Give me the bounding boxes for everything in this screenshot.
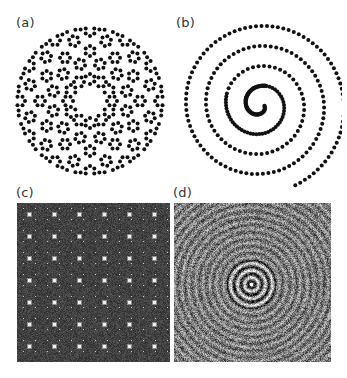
panel-b-dot [319,127,323,131]
panel-a-dot [56,73,60,77]
panel-b-dot [202,52,206,56]
panel-a-dot [161,103,165,107]
panel-a-dot [40,45,44,49]
panel-b-dot [276,25,280,29]
panel-b-dot [303,178,307,182]
panel-b-dot [261,172,265,176]
panel-b-dot [204,97,208,101]
panel-a-dot [97,122,101,126]
panel-a-dot [92,47,96,51]
panel-a-dot [66,138,70,142]
panel-a-dot [65,122,69,126]
panel-a-dot [102,76,106,80]
panel-a-dot [111,138,115,142]
panel-a-dot [92,152,96,156]
panel-a-dot [88,44,92,48]
panel-a-dot [68,155,72,159]
panel-a-dot [127,127,131,131]
panel-a-dot [17,90,21,94]
panel-a-dot [41,146,45,150]
panel-a-dot [27,129,31,133]
panel-a-dot [82,139,86,143]
panel-a-dot [103,137,107,141]
panel-a-dot [60,166,64,170]
panel-b-dot [280,47,284,51]
panel-a-dot [136,127,140,131]
panel-a-dot [25,87,29,91]
panel-a-dot [109,160,113,164]
panel-b-dot [233,29,237,33]
panel-b-dot [322,105,326,109]
panel-a-dot [157,122,161,126]
panel-a-dot [83,134,87,138]
panel-a-dot [84,147,88,151]
panel-a-dot [126,43,130,47]
panel-b-dot [291,78,295,82]
panel-a-dot [64,103,68,107]
panel-a-dot [88,34,92,38]
panel-a-dot [43,138,47,142]
panel-b-dot [257,64,261,68]
panel-a-dot [136,77,140,81]
panel-a-dot [79,28,83,32]
panel-b-dot [195,61,199,65]
panel-b-dot [209,76,213,80]
panel-a-dot [84,119,88,123]
panel-a-dot [128,59,132,63]
panel-b-dot [303,61,307,65]
panel-a-dot [71,99,75,103]
panel-b-dot [334,71,338,75]
panel-a-dot [43,60,47,64]
panel-a-dot [111,108,115,112]
panel-a-dot [27,139,31,143]
panel-b-dot [260,24,264,28]
panel-a-dot [133,138,137,142]
panel-a-dot [103,108,107,112]
panel-a-dot [92,124,96,128]
panel-b-dot [205,108,209,112]
panel-a-dot [88,126,92,130]
panel-a-dot [84,167,88,171]
panel-a-dot [16,95,20,99]
panel-a-dot [103,28,107,32]
panel-a-dot [40,127,44,131]
panel-b-dot [301,154,305,158]
panel-a-dot [88,72,92,76]
panel-a-dot [21,95,25,99]
panel-b-dot [216,133,220,137]
panel-a-dot [120,91,124,95]
panel-b-dot [244,171,248,175]
panel-b-dot [316,79,320,83]
panel-a-dot [53,104,57,108]
panel-a-dot [75,132,79,136]
panel-a-quasicrystal-points [10,22,170,182]
panel-a-dot [92,172,96,176]
panel-a-dot [45,119,49,123]
panel-a-dot [56,108,60,112]
panel-b-dot [300,92,304,96]
panel-b-dot [337,76,341,80]
panel-a-dot [97,84,101,88]
panel-a-dot [73,137,77,141]
panel-a-dot [49,144,53,148]
panel-b-dot [228,32,232,36]
panel-a-dot [153,67,157,71]
panel-a-dot [121,43,125,47]
panel-a-dot [157,76,161,80]
panel-b-dot [283,70,287,74]
panel-b-dot [223,34,227,38]
panel-b-dot [287,28,291,32]
panel-a-dot [128,38,132,42]
panel-a-dot [102,84,106,88]
panel-a-dot [73,61,77,65]
panel-a-dot [32,62,36,66]
panel-a-dot [127,54,131,58]
panel-b-dot [276,148,280,152]
panel-a-dot [69,83,73,87]
panel-a-dot [121,34,125,38]
panel-b-dot [198,56,202,60]
panel-a-dot [75,76,79,80]
panel-b-dot [320,164,324,168]
panel-a-dot [66,127,70,131]
panel-b-dot [190,70,194,74]
